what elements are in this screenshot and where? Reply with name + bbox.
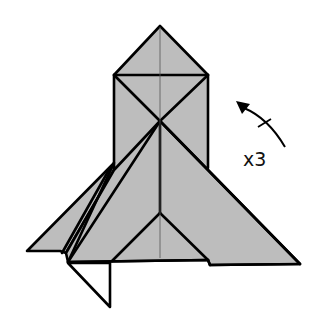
bottom-white-flap — [68, 263, 110, 307]
curved-rotate-arrow-icon — [236, 101, 285, 147]
repeat-label: x3 — [243, 148, 266, 170]
origami-diagram: x3 — [0, 0, 312, 318]
